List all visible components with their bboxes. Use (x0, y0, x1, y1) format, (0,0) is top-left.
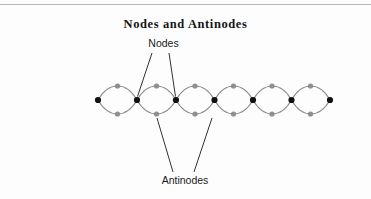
node-marker (173, 97, 179, 103)
antinode-marker-crest (231, 83, 236, 88)
antinode-marker-trough (115, 111, 120, 116)
node-marker (250, 97, 256, 103)
node-marker (288, 97, 294, 103)
node-marker (327, 97, 333, 103)
node-marker (134, 97, 140, 103)
antinode-marker-crest (192, 83, 197, 88)
antinode-marker-trough (308, 111, 313, 116)
antinode-marker-trough (192, 111, 197, 116)
node-marker (95, 97, 101, 103)
node-marker (211, 97, 217, 103)
antinode-marker-crest (154, 83, 159, 88)
antinode-marker-trough (269, 111, 274, 116)
figure-page: Nodes and Antinodes Nodes Antinodes (0, 0, 371, 199)
standing-wave-diagram (0, 0, 371, 199)
node-marker-group (95, 97, 333, 103)
leader-line (169, 53, 176, 97)
antinode-marker-trough (231, 111, 236, 116)
antinode-marker-trough (154, 111, 159, 116)
antinode-marker-crest (308, 83, 313, 88)
leader-line (194, 118, 212, 172)
antinode-marker-crest (115, 83, 120, 88)
leader-line (157, 118, 173, 172)
antinode-marker-crest (269, 83, 274, 88)
